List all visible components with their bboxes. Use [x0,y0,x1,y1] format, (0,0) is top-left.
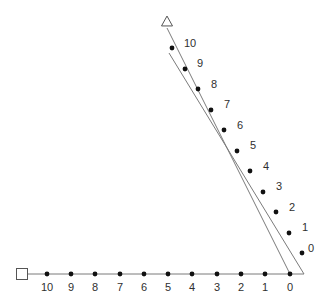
ray-point-label: 7 [224,98,230,110]
diagram-canvas: 109876543210 109876543210 [0,0,320,308]
axis-tick-dot [166,272,171,277]
axis-tick-dot [142,272,147,277]
axis-tick-label: 0 [287,281,293,293]
right-ray-line [169,53,304,274]
axis-tick-label: 3 [214,281,220,293]
axis-tick-label: 5 [165,281,171,293]
ray-point-dot [209,108,214,113]
axis-tick-label: 4 [189,281,195,293]
ray-point-label: 8 [211,78,217,90]
ray-point-label: 5 [250,139,256,151]
axis-tick-label-group: 109876543210 [41,281,293,293]
axis-tick-label: 10 [41,281,53,293]
ray-point-dot [300,251,305,256]
ray-point-dot [183,67,188,72]
axis-tick-dot [45,272,50,277]
ray-point-label: 10 [184,37,196,49]
axis-tick-dot [215,272,220,277]
axis-tick-label: 9 [68,281,74,293]
ray-point-dot [287,231,292,236]
axis-tick-label: 7 [117,281,123,293]
axis-tick-label: 8 [92,281,98,293]
axis-tick-label: 2 [238,281,244,293]
triangle-marker [162,16,173,26]
axis-tick-dot [239,272,244,277]
ray-point-label: 2 [289,201,295,213]
ray-point-dot [196,87,201,92]
axis-tick-dot [118,272,123,277]
ray-point-label: 3 [276,180,282,192]
ray-point-dot [170,46,175,51]
ray-point-label: 6 [237,119,243,131]
ray-point-label-group: 109876543210 [184,37,314,254]
ray-point-dot [248,169,253,174]
ray-point-dot [235,149,240,154]
ray-point-dot [261,190,266,195]
axis-tick-dot [263,272,268,277]
ray-point-dot [222,128,227,133]
ray-point-dot-group [170,46,305,256]
ray-point-label: 0 [308,242,314,254]
axis-tick-dot [190,272,195,277]
axis-tick-dot [69,272,74,277]
square-marker [17,269,28,280]
number-line-figure: 109876543210 109876543210 [0,0,320,308]
ray-point-label: 1 [302,221,308,233]
axis-tick-label: 1 [262,281,268,293]
axis-tick-label: 6 [141,281,147,293]
ray-point-label: 4 [263,160,269,172]
axis-tick-dot [93,272,98,277]
ray-point-dot [274,210,279,215]
axis-tick-dot [288,272,293,277]
ray-point-label: 9 [197,57,203,69]
